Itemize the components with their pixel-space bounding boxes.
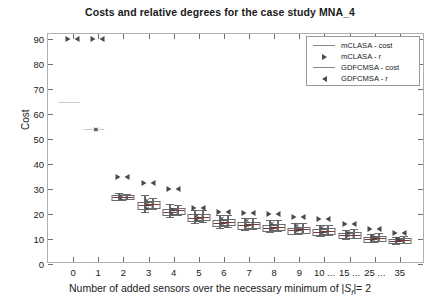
y-tick-mark: [418, 89, 423, 90]
y-tick-mark: [48, 114, 53, 115]
figure: Costs and relative degrees for the case …: [0, 0, 440, 307]
x-tick-mark: [73, 257, 74, 262]
triangle-left-icon: [307, 76, 341, 82]
x-tick-mark: [400, 257, 401, 262]
x-tick-label: 8: [272, 267, 277, 278]
x-axis-label-pre: Number of added sensors over the necessa…: [69, 282, 344, 294]
y-tick-mark: [48, 39, 53, 40]
legend: mCLASA - cost mCLASA - r GDFCMSA - cost …: [306, 36, 420, 86]
x-axis-label: Number of added sensors over the necessa…: [0, 282, 440, 297]
x-tick-mark: [199, 257, 200, 262]
box-plot-cap: [266, 232, 274, 233]
y-tick-mark: [418, 264, 423, 265]
x-tick-label: 6: [221, 267, 226, 278]
triangle-right-marker: [292, 214, 297, 220]
triangle-left-marker: [376, 226, 381, 232]
outlier-marker: ✕: [269, 224, 275, 231]
triangle-left-marker: [75, 36, 80, 42]
y-tick-mark: [48, 189, 53, 190]
y-tick-mark: [418, 114, 423, 115]
triangle-right-icon: [307, 54, 341, 60]
box-plot-cap: [174, 215, 182, 216]
box-plot-flat-line: [59, 102, 80, 103]
triangle-right-marker: [317, 216, 322, 222]
legend-item-gdfcmsa-cost: GDFCMSA - cost: [307, 62, 419, 73]
box-plot-cap: [316, 236, 324, 237]
legend-item-mclasa-cost: mCLASA - cost: [307, 40, 419, 51]
outlier-marker: ✕: [194, 216, 200, 223]
outlier-marker: ✕: [294, 227, 300, 234]
y-tick-label: 70: [33, 84, 44, 95]
x-tick-mark: [174, 34, 175, 39]
y-tick-mark: [48, 64, 53, 65]
triangle-right-marker: [166, 186, 171, 192]
x-tick-mark: [299, 34, 300, 39]
x-tick-mark: [199, 34, 200, 39]
outlier-marker: ✕: [370, 236, 376, 243]
x-tick-label: 7: [246, 267, 251, 278]
y-tick-label: 60: [33, 109, 44, 120]
outlier-marker: ✕: [395, 237, 401, 244]
x-tick-label: 25 ...: [364, 267, 385, 278]
triangle-right-marker: [242, 210, 247, 216]
y-tick-mark: [48, 264, 53, 265]
y-tick-mark: [418, 164, 423, 165]
box-plot-cap: [241, 230, 249, 231]
legend-label: GDFCMSA - cost: [341, 63, 399, 72]
triangle-left-marker: [401, 230, 406, 236]
box-plot-cap: [249, 218, 257, 219]
outlier-marker: ✕: [219, 219, 225, 226]
box-plot-cap: [149, 209, 157, 210]
triangle-left-marker: [225, 209, 230, 215]
triangle-left-marker: [276, 211, 281, 217]
x-tick-mark: [274, 257, 275, 262]
box-plot-cap: [299, 223, 307, 224]
outlier-marker: ✕: [93, 126, 99, 133]
box-plot-cap: [191, 223, 199, 224]
y-tick-label: 90: [33, 34, 44, 45]
x-axis-label-post: |= 2: [353, 282, 371, 294]
x-tick-label: 2: [121, 267, 126, 278]
legend-label: mCLASA - cost: [341, 41, 392, 50]
outlier-marker: ✕: [144, 204, 150, 211]
box-plot-cap: [324, 235, 332, 236]
x-tick-label: 1: [96, 267, 101, 278]
x-tick-mark: [249, 257, 250, 262]
y-tick-label: 30: [33, 184, 44, 195]
outlier-marker: ✕: [169, 209, 175, 216]
triangle-right-marker: [91, 36, 96, 42]
box-plot-cap: [224, 215, 232, 216]
box-plot-cap: [342, 239, 350, 240]
y-tick-mark: [48, 239, 53, 240]
triangle-right-marker: [66, 36, 71, 42]
x-tick-mark: [123, 34, 124, 39]
outlier-marker: ✕: [244, 222, 250, 229]
x-tick-mark: [375, 257, 376, 262]
x-tick-label: 3: [146, 267, 151, 278]
y-tick-mark: [48, 139, 53, 140]
y-tick-label: 20: [33, 209, 44, 220]
y-tick-label: 0: [39, 259, 44, 270]
triangle-left-marker: [200, 205, 205, 211]
box-plot-cap: [274, 220, 282, 221]
box-plot-cap: [224, 227, 232, 228]
outlier-marker: ✕: [319, 228, 325, 235]
chart-title: Costs and relative degrees for the case …: [0, 6, 440, 18]
y-tick-mark: [48, 89, 53, 90]
y-tick-mark: [48, 214, 53, 215]
x-tick-mark: [123, 257, 124, 262]
x-tick-label: 5: [196, 267, 201, 278]
box-plot-cap: [350, 229, 358, 230]
box-plot-cap: [216, 228, 224, 229]
triangle-left-marker: [150, 180, 155, 186]
x-tick-mark: [274, 34, 275, 39]
triangle-right-marker: [191, 205, 196, 211]
triangle-left-marker: [175, 186, 180, 192]
y-tick-mark: [418, 139, 423, 140]
y-tick-mark: [418, 214, 423, 215]
x-tick-mark: [149, 34, 150, 39]
y-tick-mark: [418, 239, 423, 240]
x-tick-mark: [350, 257, 351, 262]
x-tick-label: 9: [297, 267, 302, 278]
triangle-left-marker: [125, 174, 130, 180]
